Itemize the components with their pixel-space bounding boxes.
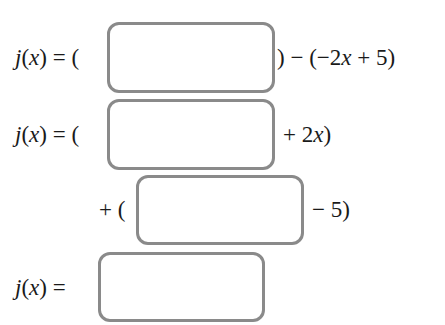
row1-lhs-text: j(x) = (	[15, 45, 79, 70]
row1-answer-box[interactable]	[107, 22, 275, 93]
row2-rhs: + 2x)	[283, 122, 331, 148]
row3-rhs-text: − 5)	[312, 197, 350, 222]
row3-lhs-text: + (	[99, 197, 125, 222]
row2-answer-box[interactable]	[107, 99, 275, 170]
row4-answer-box[interactable]	[98, 252, 265, 322]
row4-lhs: j(x) =	[15, 275, 66, 301]
row1-rhs-text: ) − (−2x + 5)	[277, 45, 395, 70]
row3-answer-box[interactable]	[136, 175, 304, 245]
row1-answer-input[interactable]	[110, 25, 272, 90]
row2-lhs: j(x) = (	[15, 122, 79, 148]
row4-answer-input[interactable]	[101, 255, 262, 319]
row2-answer-input[interactable]	[110, 102, 272, 167]
row1-lhs: j(x) = (	[15, 45, 79, 71]
row1-rhs: ) − (−2x + 5)	[277, 45, 395, 71]
row3-answer-input[interactable]	[139, 178, 301, 242]
row2-lhs-text: j(x) = (	[15, 122, 79, 147]
row3-rhs: − 5)	[312, 197, 350, 223]
row2-rhs-text: + 2x)	[283, 122, 331, 147]
row3-lhs: + (	[99, 197, 125, 223]
row4-lhs-text: j(x) =	[15, 275, 66, 300]
